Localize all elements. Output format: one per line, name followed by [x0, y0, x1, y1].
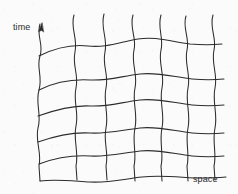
spacetime-grid-figure: time space	[0, 0, 238, 194]
space-line-4	[38, 128, 224, 142]
time-line-1	[37, 24, 41, 181]
space-line-3	[38, 100, 224, 116]
grid-canvas	[0, 0, 238, 194]
time-axis-label: time	[13, 22, 30, 32]
time-line-2	[73, 15, 77, 180]
time-line-7	[212, 15, 216, 180]
space-line-5	[39, 151, 224, 164]
space-axis-label: space	[193, 174, 218, 184]
grid-curves-group	[37, 14, 226, 182]
time-line-6	[185, 16, 189, 181]
space-line-1	[39, 38, 222, 56]
space-line-2	[39, 74, 224, 90]
